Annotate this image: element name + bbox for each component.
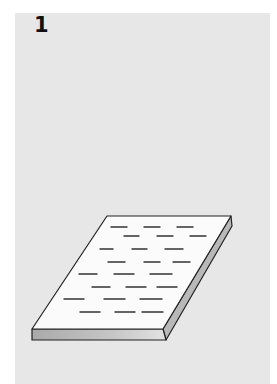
sheet-front-face — [32, 329, 166, 340]
document-sheet-illustration — [0, 0, 277, 384]
